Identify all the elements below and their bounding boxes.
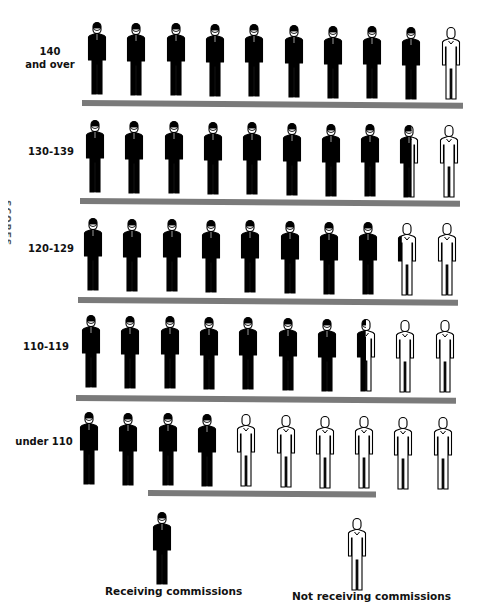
person-filled-icon: [239, 120, 265, 196]
person-filled-icon: [359, 24, 385, 100]
person-filled-icon: [163, 21, 189, 97]
person-outline-icon: [233, 412, 259, 488]
person-filled-icon: [121, 119, 147, 195]
legend-outline-person-icon: [344, 516, 370, 592]
person-filled-icon: [316, 220, 342, 296]
row-label-120-129: 120-129: [26, 242, 76, 255]
person-filled-icon: [155, 411, 181, 487]
person-outline-icon: [434, 221, 460, 297]
y-axis-label: SCORES: [2, 200, 12, 290]
legend-label-not-receiving: Not receiving commissions: [292, 590, 451, 602]
person-outline-icon: [390, 415, 416, 491]
person-filled-icon: [84, 20, 110, 96]
pictograph-row: [80, 216, 480, 296]
row-label-140-and-over: 140 and over: [22, 45, 78, 71]
row-separator-bar: [76, 395, 456, 404]
person-filled-icon: [76, 410, 102, 486]
person-outline-icon: [432, 318, 458, 394]
person-filled-icon: [279, 121, 305, 197]
person-partial-icon: [394, 221, 420, 297]
person-filled-icon: [159, 217, 185, 293]
person-filled-icon: [237, 218, 263, 294]
person-outline-icon: [351, 414, 377, 490]
row-label-line1: 140: [22, 45, 78, 58]
person-filled-icon: [119, 217, 145, 293]
person-filled-icon: [115, 411, 141, 487]
person-filled-icon: [117, 314, 143, 390]
legend-filled-person-icon: [149, 510, 175, 586]
person-filled-icon: [314, 317, 340, 393]
person-filled-icon: [235, 315, 261, 391]
person-filled-icon: [202, 22, 228, 98]
person-filled-icon: [275, 316, 301, 392]
row-label-line2: and over: [22, 58, 78, 71]
pictograph-row: [82, 118, 482, 198]
person-outline-icon: [312, 414, 338, 490]
pictograph-row: [84, 20, 483, 100]
person-filled-icon: [157, 314, 183, 390]
person-filled-icon: [123, 21, 149, 97]
person-filled-icon: [200, 120, 226, 196]
person-filled-icon: [281, 23, 307, 99]
row-label-130-139: 130-139: [26, 145, 76, 158]
person-filled-icon: [161, 119, 187, 195]
person-filled-icon: [80, 216, 106, 292]
person-filled-icon: [82, 118, 108, 194]
person-filled-icon: [320, 24, 346, 100]
pictograph-row: [78, 313, 478, 393]
person-filled-icon: [196, 315, 222, 391]
person-partial-icon: [353, 317, 379, 393]
person-partial-icon: [396, 123, 422, 199]
person-outline-icon: [392, 318, 418, 394]
person-filled-icon: [355, 220, 381, 296]
person-outline-icon: [430, 415, 456, 491]
person-outline-icon: [436, 123, 462, 199]
row-separator-bar: [80, 198, 460, 207]
person-filled-icon: [78, 313, 104, 389]
person-filled-icon: [241, 22, 267, 98]
pictograph-row: [76, 410, 476, 490]
person-filled-icon: [398, 25, 424, 101]
row-label-110-119: 110-119: [20, 340, 72, 353]
row-label-under-110: under 110: [14, 435, 74, 448]
person-filled-icon: [357, 122, 383, 198]
person-outline-icon: [273, 413, 299, 489]
row-separator-bar: [78, 297, 458, 306]
row-separator-bar: [82, 100, 463, 109]
person-partial-icon: [438, 25, 464, 101]
legend-label-receiving: Receiving commissions: [105, 585, 242, 597]
person-filled-icon: [318, 122, 344, 198]
person-filled-icon: [277, 219, 303, 295]
person-filled-icon: [198, 218, 224, 294]
row-separator-bar: [148, 490, 376, 498]
person-filled-icon: [194, 412, 220, 488]
